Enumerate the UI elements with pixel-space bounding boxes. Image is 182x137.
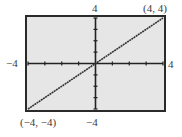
point-label-bottom-left: (−4, −4) <box>20 116 56 128</box>
point-label-top-right: (4, 4) <box>143 2 167 14</box>
x-max-label: 4 <box>168 58 174 70</box>
y-max-label: 4 <box>92 2 98 14</box>
x-min-label: −4 <box>6 57 18 69</box>
y-min-label: −4 <box>86 116 98 128</box>
